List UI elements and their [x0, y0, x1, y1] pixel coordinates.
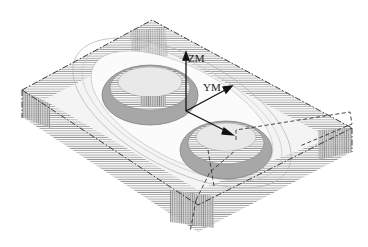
ym-axis-label: YM	[203, 82, 221, 93]
toolpath-drawing	[0, 0, 368, 247]
zm-axis-label: ZM	[188, 53, 205, 64]
boss-upper	[102, 65, 198, 125]
toolpath-diagram: ZM YM	[0, 0, 368, 247]
